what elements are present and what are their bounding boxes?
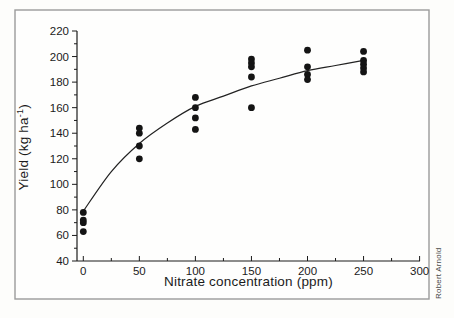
y-axis-tick-label: 120 xyxy=(50,153,69,165)
data-point xyxy=(80,209,87,216)
y-axis-tick-label: 60 xyxy=(56,229,69,241)
credit-text: Robert Arnold xyxy=(434,247,443,299)
data-point xyxy=(360,48,367,55)
x-axis-title: Nitrate concentration (ppm) xyxy=(77,274,420,289)
data-point xyxy=(136,143,143,150)
data-point xyxy=(80,219,87,226)
data-point xyxy=(304,63,311,70)
y-axis-title: Yield (kg ha-1) xyxy=(15,77,32,217)
data-point xyxy=(192,94,199,101)
data-point xyxy=(192,114,199,121)
data-point xyxy=(192,104,199,111)
data-point xyxy=(80,228,87,235)
figure-panel: 0501001502002503004060801001201401601802… xyxy=(0,0,454,318)
y-axis-tick-label: 100 xyxy=(50,178,69,190)
y-axis-tick-label: 140 xyxy=(50,127,69,139)
y-axis-title-suffix: ) xyxy=(16,104,31,109)
data-point xyxy=(136,130,143,137)
y-axis-tick-label: 220 xyxy=(50,25,69,37)
y-axis-tick-label: 160 xyxy=(50,102,69,114)
scatter-chart: 0501001502002503004060801001201401601802… xyxy=(0,0,454,318)
y-axis-tick-label: 40 xyxy=(56,255,69,267)
data-point xyxy=(248,104,255,111)
y-axis-title-prefix: Yield (kg ha xyxy=(16,117,31,190)
data-point xyxy=(360,68,367,75)
data-point xyxy=(248,63,255,70)
data-point xyxy=(304,47,311,54)
y-axis-tick-label: 180 xyxy=(50,76,69,88)
data-point xyxy=(304,76,311,83)
y-axis-tick-label: 200 xyxy=(50,51,69,63)
data-point xyxy=(248,74,255,81)
y-axis-tick-label: 80 xyxy=(56,204,69,216)
data-point xyxy=(192,126,199,133)
data-point xyxy=(136,155,143,162)
y-axis-title-superscript: -1 xyxy=(15,109,25,117)
